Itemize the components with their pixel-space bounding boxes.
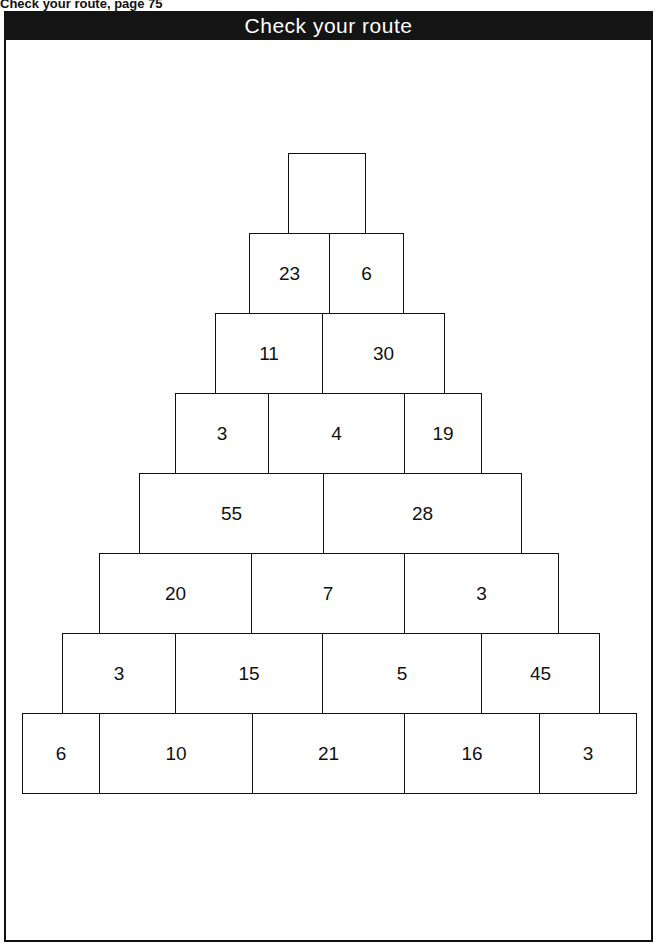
pyramid-cell: 5 — [322, 633, 482, 714]
pyramid-cell: 3 — [175, 393, 269, 474]
pyramid-cell: 23 — [249, 233, 330, 314]
pyramid-cell — [288, 153, 366, 234]
pyramid-cell: 3 — [62, 633, 176, 714]
page-title: Check your route — [4, 11, 653, 41]
pyramid-cell: 16 — [404, 713, 540, 794]
pyramid-cell: 4 — [268, 393, 405, 474]
pyramid-cell: 7 — [251, 553, 405, 634]
pyramid-cell: 6 — [22, 713, 100, 794]
pyramid-cell: 15 — [175, 633, 323, 714]
pyramid-cell: 55 — [139, 473, 324, 554]
pyramid-cell: 20 — [99, 553, 252, 634]
pyramid-cell: 10 — [99, 713, 253, 794]
pyramid-cell: 19 — [404, 393, 482, 474]
pyramid-cell: 3 — [539, 713, 637, 794]
pyramid-cell: 3 — [404, 553, 559, 634]
page-caption: Check your route, page 75 — [0, 0, 163, 11]
pyramid-cell: 11 — [215, 313, 323, 394]
pyramid-cell: 30 — [322, 313, 445, 394]
pyramid-cell: 6 — [329, 233, 404, 314]
pyramid-cell: 28 — [323, 473, 522, 554]
pyramid-cell: 21 — [252, 713, 405, 794]
pyramid-cell: 45 — [481, 633, 600, 714]
